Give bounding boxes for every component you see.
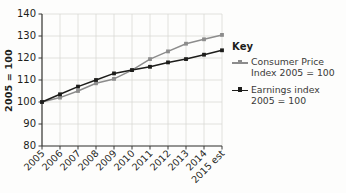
series-point-marker: [40, 100, 44, 104]
legend-label-line2: 2005 = 100: [251, 95, 306, 106]
legend-title: Key: [232, 41, 344, 52]
legend-label-line1: Consumer Price: [251, 56, 324, 67]
y-tick-labels: 8090100110120130140: [17, 8, 36, 151]
y-axis-title: 2005 = 100: [0, 0, 16, 160]
y-tick-label: 130: [17, 30, 36, 41]
x-tick-labels: 2005200620072008200920102011201220132014…: [22, 147, 226, 185]
gridlines: [42, 14, 222, 146]
y-tick-label: 110: [17, 74, 36, 85]
series-point-marker: [58, 96, 62, 100]
chart-screenshot: 2005 = 100 8090100110120130140 200520062…: [0, 0, 346, 193]
axis-lines: [39, 14, 223, 150]
series-point-marker: [94, 81, 98, 85]
legend-item-consumer-price-index: Consumer Price Index 2005 = 100: [232, 56, 344, 79]
legend-label-line2: Index 2005 = 100: [251, 67, 335, 78]
series-point-marker: [202, 37, 206, 41]
series-point-marker: [112, 77, 116, 81]
y-tick-label: 120: [17, 52, 36, 63]
series-point-marker: [202, 53, 206, 57]
series-point-marker: [166, 61, 170, 65]
series-point-marker: [112, 72, 116, 76]
series-point-marker: [184, 42, 188, 46]
series-point-marker: [58, 92, 62, 96]
plot-area: 8090100110120130140 20052006200720082009…: [16, 8, 226, 193]
legend-marker-icon: [232, 57, 248, 70]
series-point-marker: [130, 68, 134, 72]
y-tick-label: 100: [17, 96, 36, 107]
y-tick-label: 140: [17, 8, 36, 19]
legend-item-label: Earnings index 2005 = 100: [251, 84, 320, 107]
legend-label-line1: Earnings index: [251, 84, 320, 95]
series-point-marker: [76, 89, 80, 93]
y-tick-label: 90: [23, 118, 36, 129]
series-point-marker: [94, 78, 98, 82]
series-point-marker: [220, 48, 224, 52]
legend-marker-icon: [232, 85, 248, 98]
legend: Key Consumer Price Index 2005 = 100 Earn…: [232, 41, 344, 112]
legend-item-label: Consumer Price Index 2005 = 100: [251, 56, 335, 79]
series-point-marker: [148, 65, 152, 69]
legend-item-earnings-index: Earnings index 2005 = 100: [232, 84, 344, 107]
series-point-marker: [148, 57, 152, 61]
series-point-marker: [220, 33, 224, 37]
series-point-marker: [184, 57, 188, 61]
y-tick-label: 80: [23, 140, 36, 151]
series-point-marker: [166, 50, 170, 54]
line-chart: 8090100110120130140 20052006200720082009…: [16, 8, 226, 193]
legend-square-marker-icon: [238, 60, 242, 64]
legend-square-marker-icon: [238, 87, 242, 91]
series-point-marker: [76, 85, 80, 89]
y-axis-title-label: 2005 = 100: [3, 49, 14, 112]
